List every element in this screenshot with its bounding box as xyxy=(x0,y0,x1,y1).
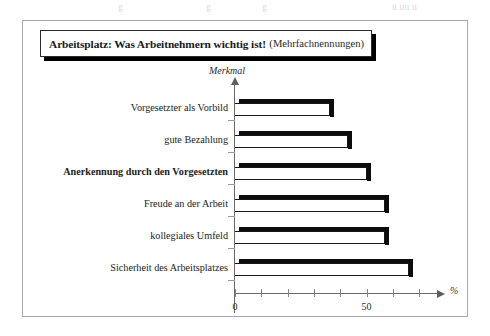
category-label: kollegiales Umfeld xyxy=(150,230,228,242)
category-tick xyxy=(228,248,235,249)
category-tick xyxy=(228,120,235,121)
bar xyxy=(235,99,334,117)
category-label: Freude an der Arbeit xyxy=(144,198,228,210)
category-label: Sicherheit des Arbeitsplatzes xyxy=(110,262,228,274)
x-axis-arrow-icon xyxy=(437,290,445,298)
category-tick xyxy=(228,152,235,153)
x-axis-tick xyxy=(288,289,289,297)
bar xyxy=(235,259,413,277)
category-tick xyxy=(228,184,235,185)
x-axis-tick xyxy=(393,289,394,297)
bar-front-face xyxy=(235,231,385,244)
x-axis-tick xyxy=(235,289,236,297)
x-axis-title: % xyxy=(450,285,458,296)
bar xyxy=(235,131,352,149)
bar-side-face xyxy=(409,259,413,277)
figure-frame: Arbeitsplatz: Was Arbeitnehmern wichtig … xyxy=(22,20,468,317)
bleed-fragment: g xyxy=(118,2,123,12)
x-axis-line xyxy=(234,293,438,294)
x-axis-tick xyxy=(340,289,341,297)
page-top-bleed-text: gggu uu u xyxy=(0,0,490,12)
bar-front-face xyxy=(235,135,348,148)
y-axis-title: Merkmal xyxy=(209,65,245,76)
x-axis-tick xyxy=(367,289,368,297)
category-label: gute Bezahlung xyxy=(164,134,228,146)
bar-side-face xyxy=(385,195,389,213)
category-label: Anerkennung durch den Vorgesetzten xyxy=(63,166,228,178)
bar-side-face xyxy=(348,131,352,149)
bar-front-face xyxy=(235,103,330,116)
bar xyxy=(235,227,389,245)
category-tick xyxy=(228,280,235,281)
x-axis-tick xyxy=(314,289,315,297)
category-label: Vorgesetzter als Vorbild xyxy=(131,102,228,114)
bar-front-face xyxy=(235,263,409,276)
x-axis-tick xyxy=(261,289,262,297)
plot-area: Merkmal % 050 Vorgesetzter als Vorbildgu… xyxy=(23,21,469,318)
bleed-fragment: u uu u xyxy=(392,2,417,12)
bar-front-face xyxy=(235,167,367,180)
bar xyxy=(235,163,371,181)
bleed-fragment: g xyxy=(262,2,267,12)
x-axis-tick-label: 0 xyxy=(233,301,238,312)
bar-side-face xyxy=(330,99,334,117)
x-axis-tick-label: 50 xyxy=(362,301,372,312)
x-axis-tick xyxy=(419,289,420,297)
bar xyxy=(235,195,389,213)
bar-front-face xyxy=(235,199,385,212)
category-tick xyxy=(228,216,235,217)
bar-side-face xyxy=(385,227,389,245)
figure-page: gggu uu u Arbeitsplatz: Was Arbeitnehmer… xyxy=(0,0,490,336)
bleed-fragment: g xyxy=(206,2,211,12)
bar-side-face xyxy=(367,163,371,181)
